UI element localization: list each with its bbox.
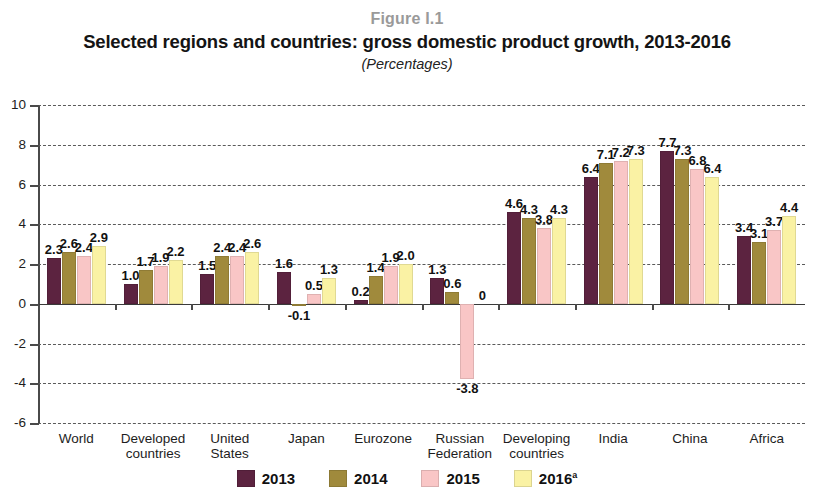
x-axis-tick [115, 304, 117, 310]
bar [552, 218, 566, 303]
bar [767, 230, 781, 304]
bar-group: 1.30.6-3.80 [422, 105, 499, 423]
bar [507, 212, 521, 303]
bar-group: 0.21.41.92.0 [345, 105, 422, 423]
bar [460, 304, 474, 380]
y-axis-tick-label: 6 [0, 178, 26, 192]
y-axis-tick [30, 383, 39, 385]
bar [690, 169, 704, 304]
bar [584, 177, 598, 304]
bar-value-label: 1.3 [314, 263, 344, 276]
bar-group: 6.47.17.27.3 [575, 105, 652, 423]
bar [399, 264, 413, 304]
bar [737, 236, 751, 304]
x-axis-tick-label: Eurozone [345, 431, 422, 446]
x-axis-category-label: Developingcountries [498, 431, 575, 461]
legend-item: 2016a [514, 470, 577, 487]
x-axis-category-label: China [652, 431, 729, 446]
x-axis-tick-label: Japan [268, 431, 345, 446]
y-axis-tick [30, 105, 39, 107]
y-axis-tick-label: -4 [0, 376, 26, 390]
plot-area: World2.32.62.42.9Developedcountries1.01.… [38, 105, 805, 423]
x-axis-tick-label: Developing [498, 431, 575, 446]
bar [47, 258, 61, 304]
chart-legend: 2013201420152016a [0, 470, 814, 487]
bar [92, 246, 106, 304]
bar-value-label: 6.4 [697, 162, 727, 175]
y-axis-tick-label: 4 [0, 217, 26, 231]
bar-value-label: 2.6 [237, 237, 267, 250]
x-axis-category-label: World [38, 431, 115, 446]
bar-chart: World2.32.62.42.9Developedcountries1.01.… [0, 0, 814, 495]
x-axis-tick-label: World [38, 431, 115, 446]
bar [629, 159, 643, 304]
legend-swatch [514, 470, 532, 487]
bar [154, 266, 168, 304]
y-axis-tick-label: -6 [0, 416, 26, 430]
bar [369, 276, 383, 304]
bar-value-label: -0.1 [284, 309, 314, 322]
legend-footnote-marker: a [572, 470, 577, 480]
x-axis-tick [652, 304, 654, 310]
x-axis-tick-label: countries [115, 446, 192, 461]
bar [230, 256, 244, 304]
x-axis-tick-label: States [191, 446, 268, 461]
bar [599, 163, 613, 304]
bar-group: 7.77.36.86.4 [652, 105, 729, 423]
bar-value-label: 0 [467, 289, 497, 302]
gridline [38, 423, 805, 424]
bar [522, 218, 536, 303]
bar [675, 159, 689, 304]
bar [62, 252, 76, 304]
bar-value-label: -3.8 [452, 382, 482, 395]
legend-label: 2013 [262, 471, 295, 486]
legend-label: 2015 [446, 471, 479, 486]
bar-value-label: 2.9 [84, 231, 114, 244]
y-axis-tick [30, 145, 39, 147]
x-axis-tick-label: Federation [422, 446, 499, 461]
bar [200, 274, 214, 304]
x-axis-category-label: Developedcountries [115, 431, 192, 461]
bar [537, 228, 551, 304]
x-axis-tick-label: countries [498, 446, 575, 461]
y-axis-tick [30, 185, 39, 187]
bar-value-label: 4.3 [544, 203, 574, 216]
bar-value-label: 7.3 [621, 144, 651, 157]
bar-group: 1.6-0.10.51.3 [268, 105, 345, 423]
y-axis-tick [30, 423, 39, 425]
bar [322, 278, 336, 304]
y-axis-tick-label: 2 [0, 257, 26, 271]
x-axis-category-label: Africa [728, 431, 805, 446]
x-axis-tick [575, 304, 577, 310]
bar-value-label: 4.4 [774, 201, 804, 214]
x-axis-tick-label: Russian [422, 431, 499, 446]
x-axis-category-label: India [575, 431, 652, 446]
x-axis-tick-label: United [191, 431, 268, 446]
x-axis-tick [498, 304, 500, 310]
bar-value-label: 1.3 [422, 263, 452, 276]
y-axis-tick-label: 10 [0, 98, 26, 112]
bar [277, 272, 291, 304]
x-axis-tick-label: Africa [728, 431, 805, 446]
bar [384, 266, 398, 304]
bar [752, 242, 766, 304]
bar-group: 4.64.33.84.3 [498, 105, 575, 423]
bar [307, 294, 321, 304]
legend-label: 2016a [539, 471, 577, 486]
x-axis-tick [422, 304, 424, 310]
x-axis-category-label: UnitedStates [191, 431, 268, 461]
y-axis-tick [30, 304, 39, 306]
bar-group: 3.43.13.74.4 [728, 105, 805, 423]
bar [215, 256, 229, 304]
legend-item: 2015 [421, 470, 479, 487]
bar-group: 1.52.42.42.6 [191, 105, 268, 423]
x-axis-category-label: RussianFederation [422, 431, 499, 461]
bar [139, 270, 153, 304]
bar [292, 304, 306, 306]
x-axis-category-label: Eurozone [345, 431, 422, 446]
bar-value-label: 2.2 [161, 245, 191, 258]
bar [660, 151, 674, 304]
bar [354, 300, 368, 304]
bar-group: 2.32.62.42.9 [38, 105, 115, 423]
x-axis-tick-label: Developed [115, 431, 192, 446]
